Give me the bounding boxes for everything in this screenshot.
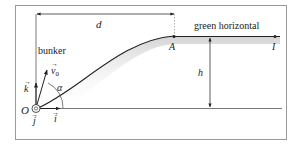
angle-label: α (57, 82, 63, 93)
velocity-arrow (36, 70, 47, 108)
point-i-dot (274, 35, 277, 38)
point-a-dot (173, 35, 176, 38)
unit-k-arrowhead-glyph: → (24, 78, 31, 86)
projectile-diagram: d green horizontal A I h bunker k → v0 →… (0, 0, 301, 148)
origin-label: O (21, 104, 29, 116)
distance-label: d (96, 18, 102, 30)
point-a-label: A (168, 41, 176, 52)
height-label: h (198, 67, 203, 78)
unit-j-arrowhead-glyph: → (31, 111, 38, 119)
unit-i-arrowhead-glyph: → (52, 109, 59, 117)
point-i-label: I (271, 41, 276, 52)
velocity-arrowhead-glyph: → (51, 60, 58, 68)
bunker-label: bunker (38, 45, 66, 56)
green-label: green horizontal (194, 20, 259, 31)
terrain-shading (36, 36, 280, 112)
